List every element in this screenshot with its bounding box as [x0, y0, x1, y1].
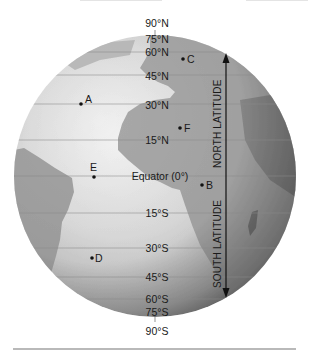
point-d-label: D — [95, 252, 103, 264]
point-a-label: A — [85, 93, 92, 105]
label-30n: 30°N — [145, 99, 168, 111]
label-15n: 15°N — [145, 134, 168, 146]
label-45s: 45°S — [146, 271, 169, 283]
point-c-dot — [181, 57, 185, 61]
bottom-divider — [13, 348, 296, 350]
label-45n: 45°N — [145, 70, 168, 82]
label-60n: 60°N — [145, 46, 168, 58]
label-equator: Equator (0°) — [132, 170, 189, 182]
label-30s: 30°S — [146, 242, 169, 254]
point-a-dot — [79, 102, 83, 106]
label-75n: 75°N — [145, 33, 168, 45]
point-c-label: C — [187, 53, 195, 65]
south-latitude-label: SOUTH LATITUDE — [212, 200, 223, 288]
latitude-globe-diagram: 90°N 75°N 60°N 45°N 30°N 15°N Equator (0… — [0, 0, 311, 355]
point-f-dot — [178, 126, 182, 130]
label-15s: 15°S — [146, 207, 169, 219]
label-90n: 90°N — [145, 17, 168, 29]
point-b-dot — [200, 183, 204, 187]
label-75s: 75°S — [146, 306, 169, 318]
point-e-label: E — [90, 161, 97, 173]
label-90s: 90°S — [146, 325, 169, 337]
north-latitude-label: NORTH LATITUDE — [212, 79, 223, 168]
point-f-label: F — [184, 122, 190, 134]
point-b-label: B — [206, 179, 213, 191]
label-60s: 60°S — [146, 293, 169, 305]
point-e-dot — [92, 175, 96, 179]
point-d-dot — [90, 256, 94, 260]
